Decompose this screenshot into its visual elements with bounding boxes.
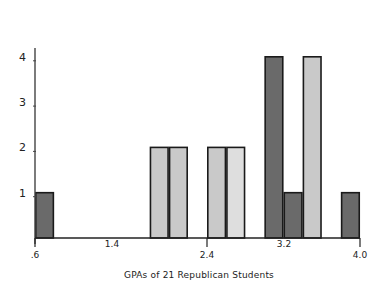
histogram-bar — [227, 147, 245, 238]
y-tick-label: 1 — [19, 187, 26, 200]
x-tick-label: 1.4 — [105, 239, 120, 249]
x-tick-label: 2.4 — [200, 250, 215, 260]
y-tick-label: 3 — [19, 96, 26, 109]
histogram-bar — [150, 147, 168, 238]
histogram-bar — [208, 147, 226, 238]
histogram-bar — [342, 193, 360, 238]
x-tick-label: 4.0 — [353, 250, 368, 260]
x-tick-label: .6 — [31, 250, 40, 260]
y-tick-label: 4 — [19, 51, 26, 64]
histogram-bar — [303, 57, 321, 238]
histogram-bar — [170, 147, 188, 238]
x-tick-label: 3.2 — [277, 239, 291, 249]
histogram-bar — [284, 193, 302, 238]
histogram-bar — [265, 57, 283, 238]
histogram-bar — [36, 193, 54, 238]
histogram-chart: 1234.61.42.43.24.0 GPAs of 21 Republican… — [0, 0, 378, 292]
x-axis-title: GPAs of 21 Republican Students — [0, 270, 378, 280]
plot-area: 1234.61.42.43.24.0 — [0, 0, 378, 292]
y-tick-label: 2 — [19, 141, 26, 154]
